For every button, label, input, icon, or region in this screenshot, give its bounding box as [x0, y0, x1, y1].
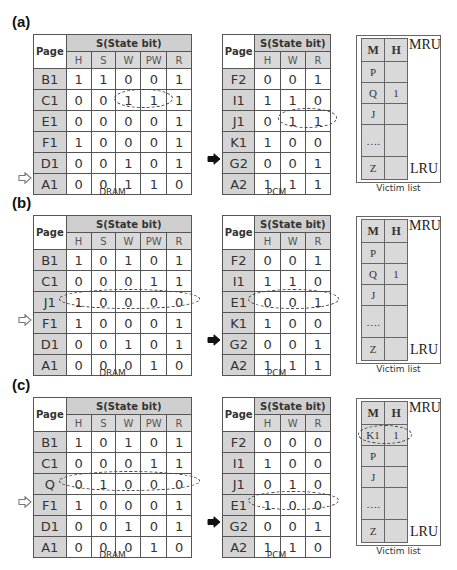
state-bit-cell: 0 [255, 334, 280, 355]
state-bit-cell: 0 [305, 474, 330, 495]
victim-page-cell: P [362, 446, 385, 467]
victim-list-table: MHK11PJ….Z [361, 401, 408, 543]
column-header-s: S [91, 415, 116, 432]
victim-list-row: K11 [362, 425, 408, 446]
column-header-r: R [167, 233, 192, 250]
state-bit-cell: 1 [116, 250, 141, 271]
column-header-r: R [305, 415, 330, 432]
column-header-h: H [255, 415, 280, 432]
column-header-r: R [305, 233, 330, 250]
solid-pointer-arrow-icon [207, 513, 221, 525]
solid-pointer-arrow-icon [207, 331, 221, 343]
page-id-cell: F1 [34, 313, 67, 334]
state-bit-header: S(State bit) [255, 398, 331, 415]
state-bit-cell: 0 [66, 453, 91, 474]
state-bit-cell: 0 [116, 495, 141, 516]
page-id-cell: C1 [34, 453, 67, 474]
page-id-cell: G2 [223, 334, 255, 355]
panel-label: (c) [12, 376, 30, 393]
state-bit-cell: 0 [141, 432, 167, 453]
column-header-w: W [116, 233, 141, 250]
victim-list-row: …. [362, 306, 408, 338]
victim-hit-cell: 1 [385, 425, 408, 446]
page-header: Page [223, 398, 255, 432]
victim-header-m: M [362, 402, 385, 425]
state-bit-cell: 1 [116, 516, 141, 537]
victim-list-row: Z [362, 520, 408, 543]
state-bit-cell: 0 [280, 495, 305, 516]
state-bit-cell: 0 [141, 250, 167, 271]
page-id-cell: K1 [223, 313, 255, 334]
state-bit-cell: 0 [91, 453, 116, 474]
victim-page-cell: Q [362, 264, 385, 285]
victim-page-cell: Z [362, 338, 385, 361]
state-bit-cell: 0 [280, 453, 305, 474]
column-header-h: H [66, 233, 91, 250]
state-bit-cell: 0 [305, 271, 330, 292]
table-row: F110001 [34, 313, 192, 334]
victim-list-row: …. [362, 488, 408, 520]
state-bit-cell: 0 [280, 250, 305, 271]
victim-page-cell: …. [362, 306, 385, 338]
victim-hit-cell [385, 467, 408, 488]
state-bit-cell: 0 [141, 495, 167, 516]
victim-hit-cell [385, 243, 408, 264]
victim-hit-cell [385, 285, 408, 306]
state-bit-cell: 1 [255, 453, 280, 474]
state-bit-cell: 0 [91, 334, 116, 355]
column-header-w: W [280, 233, 305, 250]
victim-list-table: MHPQ1J….Z [361, 219, 408, 361]
state-bit-cell: 0 [66, 334, 91, 355]
dram-table: PageS(State bit)HSWPWRB110101C100011J110… [33, 215, 192, 376]
victim-header-h: H [385, 402, 408, 425]
lru-label: LRU [410, 524, 438, 540]
state-bit-cell: 0 [141, 474, 167, 495]
page-id-cell: G2 [223, 516, 255, 537]
table-row: C100011 [34, 271, 192, 292]
dram-caption: DRAM [33, 368, 192, 378]
state-bit-cell: 0 [305, 313, 330, 334]
state-bit-cell: 0 [91, 495, 116, 516]
page-id-cell: F1 [34, 495, 67, 516]
victim-page-cell: J [362, 467, 385, 488]
victim-page-cell: P [362, 243, 385, 264]
state-bit-cell: 1 [66, 495, 91, 516]
state-bit-cell: 1 [167, 271, 192, 292]
state-bit-cell: 1 [141, 271, 167, 292]
state-bit-cell: 1 [305, 292, 330, 313]
table-row: J1010 [223, 474, 331, 495]
page-id-cell: E1 [223, 292, 255, 313]
state-bit-cell: 0 [305, 495, 330, 516]
table-row: G2001 [223, 516, 331, 537]
state-bit-cell: 0 [255, 432, 280, 453]
state-bit-cell: 0 [167, 474, 192, 495]
pcm-caption: PCM [222, 187, 331, 197]
page-id-cell: B1 [34, 432, 67, 453]
table-row: J110000 [34, 292, 192, 313]
victim-list-caption: Victim list [356, 364, 441, 374]
mru-label: MRU [409, 400, 441, 416]
victim-page-cell: J [362, 285, 385, 306]
victim-page-cell: Z [362, 520, 385, 543]
hollow-pointer-arrow-icon [18, 311, 32, 323]
table-row: E1001 [223, 292, 331, 313]
table-row: D100101 [34, 334, 192, 355]
victim-page-cell: K1 [362, 425, 385, 446]
state-bit-cell: 1 [116, 334, 141, 355]
victim-list-row: Q1 [362, 264, 408, 285]
page-id-cell: J1 [223, 474, 255, 495]
victim-hit-cell [385, 306, 408, 338]
table-row: F110001 [34, 495, 192, 516]
state-bit-cell: 0 [280, 432, 305, 453]
state-bit-cell: 1 [167, 313, 192, 334]
victim-list-caption: Victim list [356, 183, 441, 193]
state-bit-cell: 0 [255, 250, 280, 271]
table-row: F2001 [223, 250, 331, 271]
pcm-table: PageS(State bit)HWRF2000I1100J1010E1100G… [222, 397, 331, 558]
state-bit-cell: 1 [167, 432, 192, 453]
victim-hit-cell [385, 338, 408, 361]
state-bit-header: S(State bit) [66, 398, 191, 415]
panel-label: (b) [12, 194, 31, 211]
page-id-cell: F2 [223, 250, 255, 271]
state-bit-cell: 0 [91, 271, 116, 292]
